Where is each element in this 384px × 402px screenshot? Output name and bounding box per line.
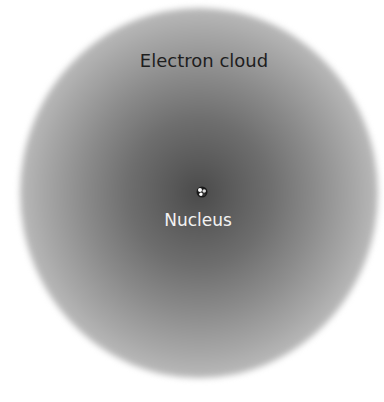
electron-cloud-label: Electron cloud bbox=[0, 50, 384, 71]
nucleus-icon bbox=[196, 186, 208, 198]
nucleus-label: Nucleus bbox=[0, 210, 384, 230]
